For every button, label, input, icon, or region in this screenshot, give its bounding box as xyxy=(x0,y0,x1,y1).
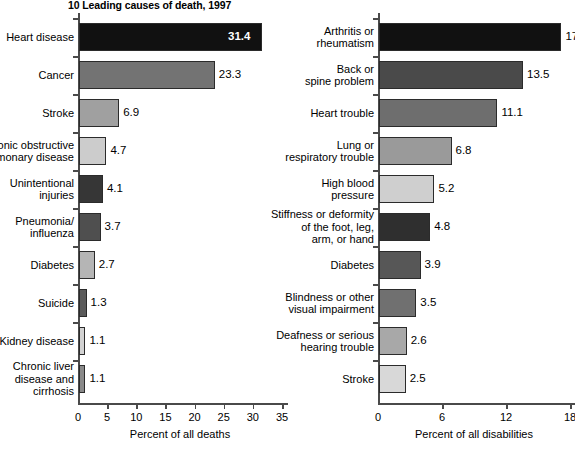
category-label: High blood pressure xyxy=(174,177,374,202)
category-label: Cancer xyxy=(0,69,74,82)
bar-value-label: 17.1 xyxy=(565,30,575,42)
y-axis-tick xyxy=(373,132,378,134)
bar xyxy=(379,327,407,355)
bar xyxy=(79,175,103,203)
x-axis-tick xyxy=(165,404,167,409)
x-axis-line xyxy=(378,403,575,405)
category-label: Stroke xyxy=(0,107,74,120)
bar-value-label: 5.2 xyxy=(438,182,454,194)
y-axis-tick xyxy=(373,322,378,324)
x-axis-tick xyxy=(282,404,284,409)
bar xyxy=(79,137,106,165)
x-axis-tick-label: 0 xyxy=(63,411,93,423)
bar-value-label: 6.8 xyxy=(456,144,472,156)
x-axis-caption-deaths: Percent of all deaths xyxy=(78,428,282,440)
y-axis-tick xyxy=(73,94,78,96)
x-axis-tick xyxy=(442,404,444,409)
bar-value-label: 1.1 xyxy=(89,372,105,384)
bar-value-label: 1.1 xyxy=(89,334,105,346)
bar-value-label: 3.9 xyxy=(425,258,441,270)
x-axis-tick xyxy=(136,404,138,409)
bar xyxy=(379,365,406,393)
bar xyxy=(79,289,87,317)
y-axis-tick xyxy=(373,170,378,172)
y-axis-tick xyxy=(373,56,378,58)
x-axis-caption-disabilities: Percent of all disabilities xyxy=(378,428,570,440)
chart-disabilities: Percent of all disabilities 17.1Arthriti… xyxy=(288,0,575,456)
bar-value-label: 4.7 xyxy=(110,144,126,156)
category-label: Pneumonia/ influenza xyxy=(0,215,74,240)
category-label: Chronic liver disease and cirrhosis xyxy=(0,360,74,398)
x-axis-tick xyxy=(506,404,508,409)
category-label: Heart trouble xyxy=(174,107,374,120)
bar-value-label: 13.5 xyxy=(527,68,549,80)
x-axis-tick-label: 12 xyxy=(491,411,521,423)
bar-value-label: 11.1 xyxy=(501,106,523,118)
bar xyxy=(379,175,434,203)
bar xyxy=(379,99,497,127)
x-axis-tick-label: 10 xyxy=(121,411,151,423)
category-label: Kidney disease xyxy=(0,335,74,348)
bar xyxy=(379,137,452,165)
bar xyxy=(79,213,101,241)
y-axis-tick xyxy=(73,18,78,20)
x-axis-tick xyxy=(224,404,226,409)
category-label: Lung or respiratory trouble xyxy=(174,139,374,164)
bar xyxy=(79,365,85,393)
category-label: Blindness or other visual impairment xyxy=(174,291,374,316)
x-axis-tick-label: 5 xyxy=(92,411,122,423)
y-axis-tick xyxy=(373,246,378,248)
category-label: Diabetes xyxy=(174,259,374,272)
x-axis-line xyxy=(78,403,288,405)
bar xyxy=(379,23,561,51)
x-axis-tick xyxy=(570,404,572,409)
x-axis-tick-label: 6 xyxy=(427,411,457,423)
x-axis-tick-label: 20 xyxy=(180,411,210,423)
category-label: Heart disease xyxy=(0,31,74,44)
x-axis-tick xyxy=(253,404,255,409)
bar-value-label: 4.1 xyxy=(107,182,123,194)
x-axis-tick xyxy=(107,404,109,409)
y-axis-tick xyxy=(373,284,378,286)
y-axis-tick xyxy=(73,246,78,248)
category-label: Chronic obstructive pulmonary disease xyxy=(0,139,74,164)
y-axis-tick xyxy=(73,208,78,210)
y-axis-tick xyxy=(373,18,378,20)
category-label: Unintentional injuries xyxy=(0,177,74,202)
y-axis-tick xyxy=(73,56,78,58)
figure-root: 10 Leading causes of death, 1997 Percent… xyxy=(0,0,575,456)
category-label: Stroke xyxy=(174,373,374,386)
bar xyxy=(379,213,430,241)
bar xyxy=(79,99,119,127)
bar xyxy=(79,251,95,279)
bar xyxy=(79,327,85,355)
category-label: Arthritis or rheumatism xyxy=(174,25,374,50)
y-axis-tick xyxy=(73,132,78,134)
bar-value-label: 2.6 xyxy=(411,334,427,346)
y-axis-tick xyxy=(73,284,78,286)
bar-value-label: 3.7 xyxy=(105,220,121,232)
category-label: Back or spine problem xyxy=(174,63,374,88)
bar-value-label: 2.5 xyxy=(410,372,426,384)
x-axis-tick xyxy=(195,404,197,409)
category-label: Diabetes xyxy=(0,259,74,272)
bar-value-label: 4.8 xyxy=(434,220,450,232)
bar-value-label: 1.3 xyxy=(91,296,107,308)
x-axis-tick-label: 15 xyxy=(150,411,180,423)
chart-title-deaths: 10 Leading causes of death, 1997 xyxy=(68,0,231,11)
x-axis-tick-label: 30 xyxy=(238,411,268,423)
bar xyxy=(379,289,416,317)
bar-value-label: 6.9 xyxy=(123,106,139,118)
bar xyxy=(379,61,523,89)
x-axis-tick-label: 0 xyxy=(363,411,393,423)
x-axis-tick-label: 25 xyxy=(209,411,239,423)
y-axis-tick xyxy=(373,360,378,362)
bar-value-label: 3.5 xyxy=(420,296,436,308)
y-axis-tick xyxy=(73,170,78,172)
bar xyxy=(379,251,421,279)
category-label: Stiffness or deformity of the foot, leg,… xyxy=(174,208,374,246)
x-axis-tick-label: 18 xyxy=(555,411,575,423)
bar-value-label: 2.7 xyxy=(99,258,115,270)
y-axis-tick xyxy=(73,322,78,324)
y-axis-tick xyxy=(373,94,378,96)
